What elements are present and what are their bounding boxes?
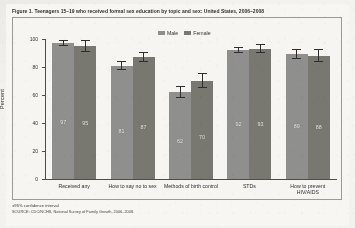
bar-value-label: 62 xyxy=(169,138,191,144)
bar-value-label: 89 xyxy=(286,123,308,129)
bar-rect xyxy=(286,54,308,179)
error-bar-cap-top xyxy=(314,49,323,50)
bar-rect xyxy=(52,43,74,179)
error-bar-cap-top xyxy=(234,47,243,48)
bar-rect xyxy=(111,66,133,179)
bar-group: 9293 xyxy=(227,39,271,179)
x-category-label: How to prevent HIV/AIDS xyxy=(279,183,337,195)
y-tick-label: 0 xyxy=(18,176,38,182)
source-note: SOURCE: CDC/NCHS, National Survey of Fam… xyxy=(12,209,342,215)
bar-female[interactable]: 93 xyxy=(249,39,271,179)
error-bar-cap-top xyxy=(256,44,265,45)
bar-rect xyxy=(227,50,249,179)
bar-value-label: 87 xyxy=(133,124,155,130)
error-bar-cap-bottom xyxy=(81,51,90,52)
bar-female[interactable]: 88 xyxy=(308,39,330,179)
chart-legend: Male Female xyxy=(158,30,211,36)
bar-male[interactable]: 97 xyxy=(52,39,74,179)
bar-group: 8988 xyxy=(286,39,330,179)
x-category-label: Received any xyxy=(45,183,103,189)
error-bar-cap-bottom xyxy=(292,58,301,59)
bar-value-label: 93 xyxy=(249,121,271,127)
bar-group: 9795 xyxy=(52,39,96,179)
bar-rect xyxy=(74,46,96,179)
error-bar-cap-top xyxy=(81,40,90,41)
bar-male[interactable]: 81 xyxy=(111,39,133,179)
error-bar-cap-top xyxy=(117,61,126,62)
bar-male[interactable]: 92 xyxy=(227,39,249,179)
legend-item-female: Female xyxy=(184,30,210,36)
bar-rect xyxy=(133,57,155,179)
y-tick-label: 20 xyxy=(18,148,38,154)
y-axis-label: Percent xyxy=(0,89,5,109)
bar-rect xyxy=(169,92,191,179)
legend-label-female: Female xyxy=(193,30,210,36)
bar-value-label: 81 xyxy=(111,128,133,134)
scanned-figure-page: Figure 1. Teenagers 15–19 who received f… xyxy=(0,0,355,228)
plot-area: 97958187627092938988 xyxy=(45,39,337,179)
y-tick-label: 80 xyxy=(18,64,38,70)
legend-swatch-female-icon xyxy=(184,31,191,34)
error-bar-cap-bottom xyxy=(256,52,265,53)
error-bar-cap-top xyxy=(198,73,207,74)
error-bar-line xyxy=(202,74,203,88)
legend-label-male: Male xyxy=(167,30,178,36)
bar-male[interactable]: 62 xyxy=(169,39,191,179)
error-bar-cap-top xyxy=(176,86,185,87)
error-bar-cap-bottom xyxy=(176,97,185,98)
bar-rect xyxy=(308,56,330,179)
bar-value-label: 70 xyxy=(191,134,213,140)
bar-value-label: 92 xyxy=(227,121,249,127)
bar-male[interactable]: 89 xyxy=(286,39,308,179)
error-bar-cap-bottom xyxy=(139,61,148,62)
bar-female[interactable]: 87 xyxy=(133,39,155,179)
figure-notes: ±95% confidence interval SOURCE: CDC/NCH… xyxy=(12,203,342,214)
legend-item-male: Male xyxy=(158,30,178,36)
y-tick-label: 40 xyxy=(18,120,38,126)
bar-rect xyxy=(191,81,213,179)
bar-group: 8187 xyxy=(111,39,155,179)
x-category-label: Methods of birth control xyxy=(162,183,220,189)
bar-value-label: 97 xyxy=(52,119,74,125)
legend-swatch-male-icon xyxy=(158,31,165,34)
error-bar-cap-top xyxy=(292,49,301,50)
error-bar-cap-bottom xyxy=(234,52,243,53)
x-category-label: STDs xyxy=(220,183,278,189)
bar-value-label: 88 xyxy=(308,124,330,130)
x-category-label: How to say no to sex xyxy=(103,183,161,189)
bar-group: 6270 xyxy=(169,39,213,179)
error-bar-cap-bottom xyxy=(59,45,68,46)
bar-female[interactable]: 70 xyxy=(191,39,213,179)
bar-rect xyxy=(249,49,271,179)
bar-value-label: 95 xyxy=(74,120,96,126)
x-axis-line xyxy=(45,179,337,180)
error-bar-cap-top xyxy=(139,52,148,53)
figure-title: Figure 1. Teenagers 15–19 who received f… xyxy=(12,8,342,15)
error-bar-cap-bottom xyxy=(314,61,323,62)
error-bar-cap-bottom xyxy=(198,87,207,88)
y-tick-label: 100 xyxy=(18,36,38,42)
error-bar-cap-bottom xyxy=(117,69,126,70)
error-bar-cap-top xyxy=(59,40,68,41)
bar-female[interactable]: 95 xyxy=(74,39,96,179)
y-tick-label: 60 xyxy=(18,92,38,98)
